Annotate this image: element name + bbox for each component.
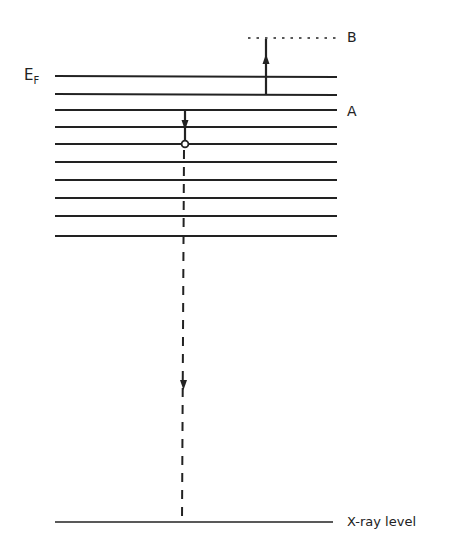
hole-circle bbox=[182, 141, 189, 148]
arrow-up-icon bbox=[263, 54, 270, 64]
band-levels bbox=[55, 76, 337, 236]
fermi-energy-label: EF bbox=[24, 68, 39, 86]
transition-arrow-down bbox=[182, 110, 189, 147]
excitation-arrow-up bbox=[263, 39, 270, 95]
xray-level-label: X-ray level bbox=[347, 515, 416, 528]
arrow-down-icon bbox=[180, 380, 187, 390]
band-level-line bbox=[55, 94, 337, 95]
level-a-label: A bbox=[347, 104, 357, 118]
energy-level-diagram bbox=[0, 0, 460, 551]
xray-decay-dashed-arrow bbox=[180, 150, 187, 522]
level-b-label: B bbox=[347, 30, 357, 44]
fermi-label-subscript: F bbox=[33, 75, 39, 86]
fermi-level-line bbox=[55, 76, 337, 77]
arrow-down-icon bbox=[182, 120, 189, 130]
